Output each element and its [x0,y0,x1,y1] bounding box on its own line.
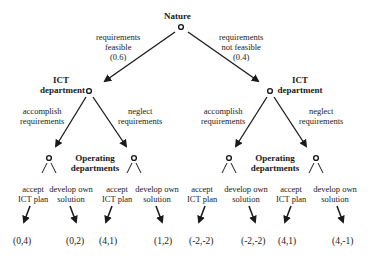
label-line: feasible [96,42,140,52]
nature-label: Nature [164,11,191,21]
neglect-right-label: neglect requirements [299,106,343,126]
label-line: solution [49,194,93,204]
payoff-2: (0,2) [66,236,84,246]
label-line: requirements [299,116,343,126]
label-line: ICT plan [18,194,48,204]
label-line: develop own [224,184,268,194]
payoff-5: (-2,-2) [189,236,214,246]
label-line: department [274,85,326,95]
payoff-1: (0,4) [13,236,31,246]
label-line: (0.6) [96,52,140,62]
label-line: Operating [66,153,124,163]
label-line: departments [66,163,124,173]
payoff-4: (1,2) [154,236,172,246]
label-line: department [40,85,82,95]
neglect-left-label: neglect requirements [118,106,162,126]
operating-left-label: Operating departments [66,153,124,173]
label-line: (0.4) [219,52,263,62]
label-line: neglect [118,106,162,116]
develop-label-1: develop own solution [49,184,93,204]
label-line: accept [18,184,48,194]
payoff-3: (4,1) [99,236,117,246]
operating-right-label: Operating departments [246,153,304,173]
branch-not-feasible-label: requirements not feasible (0.4) [219,32,263,62]
label-line: solution [135,194,179,204]
ict-left-label: ICT department [40,75,82,95]
label-line: ICT [274,75,326,85]
nature-node [179,25,184,30]
label-line: accomplish [201,106,245,116]
label-line: neglect [299,106,343,116]
payoff-7: (4,1) [278,236,296,246]
payoff-8: (4,-1) [332,236,353,246]
accomplish-right-label: accomplish requirements [201,106,245,126]
accomplish-left-label: accomplish requirements [20,106,64,126]
label-line: requirements [219,32,263,42]
accept-label-1: accept ICT plan [18,184,48,204]
tree-edges [0,0,370,259]
label-line: develop own [313,184,357,194]
label-line: ICT plan [276,194,306,204]
label-line: ICT plan [187,194,217,204]
label-line: ICT [40,75,82,85]
label-line: requirements [20,116,64,126]
accept-label-4: accept ICT plan [276,184,306,204]
label-line: accept [276,184,306,194]
accept-label-3: accept ICT plan [187,184,217,204]
label-line: departments [246,163,304,173]
label-line: develop own [135,184,179,194]
branch-feasible-label: requirements feasible (0.6) [96,32,140,62]
develop-label-2: develop own solution [135,184,179,204]
label-line: accept [187,184,217,194]
ict-right-label: ICT department [274,75,326,95]
label-line: accomplish [20,106,64,116]
label-line: ICT plan [102,194,132,204]
label-line: requirements [118,116,162,126]
label-line: accept [102,184,132,194]
payoff-6: (-2,-2) [241,236,266,246]
accept-label-2: accept ICT plan [102,184,132,204]
label-line: requirements [96,32,140,42]
develop-label-4: develop own solution [313,184,357,204]
label-line: solution [224,194,268,204]
label-line: requirements [201,116,245,126]
label-line: develop own [49,184,93,194]
label-line: Operating [246,153,304,163]
develop-label-3: develop own solution [224,184,268,204]
label-line: solution [313,194,357,204]
label-line: not feasible [219,42,263,52]
